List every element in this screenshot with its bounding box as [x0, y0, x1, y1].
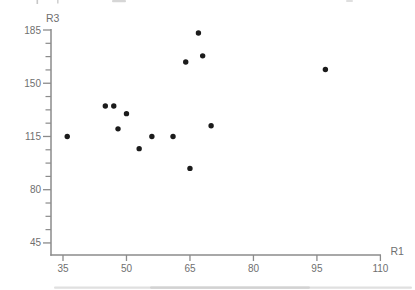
- scatter-plot-figure: 1851501158045 3550658095110 R3 R1: [0, 0, 415, 290]
- y-axis-title: R3: [46, 12, 60, 24]
- x-axis-ticks: [63, 255, 380, 261]
- data-point: [65, 134, 70, 139]
- data-point: [149, 134, 154, 139]
- y-tick-label: 115: [25, 131, 41, 142]
- x-tick-label: 65: [184, 263, 196, 274]
- data-point: [124, 111, 129, 116]
- y-axis-tick-labels: 1851501158045: [24, 25, 41, 249]
- scan-artifact-top-mid-left: [57, 0, 59, 4]
- x-axis-title: R1: [391, 245, 405, 257]
- y-tick-label: 185: [24, 25, 41, 36]
- data-point: [200, 53, 205, 58]
- scan-artifacts: [37, 0, 413, 289]
- x-tick-label: 50: [121, 263, 133, 274]
- data-point: [208, 123, 213, 128]
- scan-artifact-top-left: [37, 0, 39, 4]
- y-tick-label: 80: [30, 184, 42, 195]
- scan-artifact-top-right: [346, 0, 353, 2]
- y-tick-label: 150: [24, 78, 41, 89]
- data-point: [103, 103, 108, 108]
- x-tick-label: 35: [57, 263, 69, 274]
- x-axis-tick-labels: 3550658095110: [57, 263, 388, 274]
- data-points: [65, 30, 329, 171]
- scatter-plot: 1851501158045 3550658095110 R3 R1: [0, 0, 415, 290]
- data-point: [196, 30, 201, 35]
- axes: [50, 29, 381, 256]
- y-axis-ticks: [43, 30, 51, 243]
- x-tick-label: 80: [248, 263, 260, 274]
- data-point: [136, 146, 141, 151]
- scan-artifact-top-mid: [112, 0, 126, 2]
- data-point: [111, 103, 116, 108]
- data-point: [187, 166, 192, 171]
- data-point: [170, 134, 175, 139]
- data-point: [323, 67, 328, 72]
- x-tick-label: 95: [311, 263, 323, 274]
- data-point: [115, 126, 120, 131]
- scan-artifact-bottom-streak-2: [150, 286, 310, 289]
- y-tick-label: 45: [30, 237, 42, 248]
- x-tick-label: 110: [372, 263, 388, 274]
- data-point: [183, 59, 188, 64]
